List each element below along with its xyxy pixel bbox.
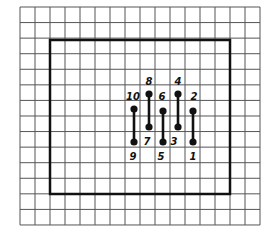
pin-pair: 65 (158, 91, 167, 162)
pin-label-top: 4 (174, 76, 182, 87)
pin-label-bottom: 3 (171, 136, 178, 147)
pin-label-top: 10 (126, 91, 140, 102)
pin-label-bottom: 1 (190, 151, 197, 162)
pin-top-dot-icon (145, 90, 152, 97)
pin-label-top: 2 (191, 91, 198, 102)
pin-bottom-dot-icon (159, 138, 166, 145)
pin-pairs: 10987654321 (126, 76, 197, 162)
pin-diagram: 10987654321 (0, 0, 271, 249)
pin-bottom-dot-icon (189, 138, 196, 145)
pin-label-bottom: 5 (158, 151, 165, 162)
pin-label-top: 8 (146, 76, 153, 87)
pin-top-dot-icon (159, 107, 166, 114)
pin-pair: 109 (126, 91, 140, 162)
pin-top-dot-icon (174, 90, 181, 97)
pin-label-top: 6 (159, 91, 166, 102)
pin-bottom-dot-icon (130, 138, 137, 145)
pin-top-dot-icon (130, 105, 137, 112)
pin-bottom-dot-icon (174, 123, 181, 130)
pin-pair: 21 (189, 91, 197, 162)
pin-label-bottom: 9 (130, 151, 137, 162)
pin-pair: 43 (171, 76, 182, 147)
pin-bottom-dot-icon (145, 123, 152, 130)
pin-label-bottom: 7 (144, 136, 151, 147)
pin-pair: 87 (144, 76, 153, 147)
diagram-canvas: 10987654321 (0, 0, 271, 249)
pin-top-dot-icon (189, 107, 196, 114)
